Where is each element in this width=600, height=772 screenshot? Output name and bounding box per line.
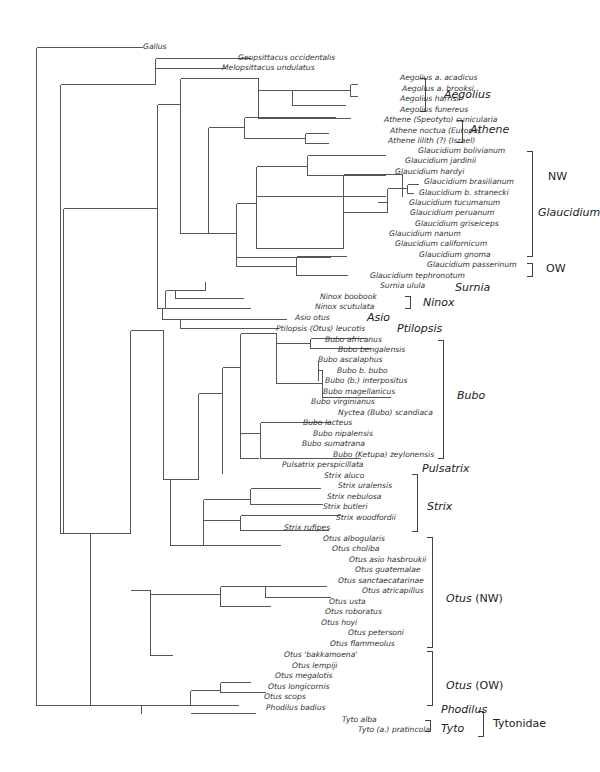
taxon-label: Bubo virginianus: [311, 397, 375, 407]
taxon-label: Glaucidium peruanum: [410, 208, 494, 218]
taxon-label: Bubo b. bubo: [337, 366, 388, 376]
clade-label-tytonidae: Tytonidae: [493, 717, 546, 731]
taxon-label: Glaucidium bolivianum: [418, 146, 505, 156]
taxon-label: Strix rufipes: [284, 523, 330, 533]
taxon-label: Bubo magellanicus: [323, 387, 395, 397]
otus-nw-bracket: [427, 538, 433, 648]
taxon-label: Strix aluco: [324, 471, 364, 481]
taxon-label: Glaucidium passerinum: [427, 260, 517, 270]
clade-region: (NW): [472, 592, 503, 605]
taxon-label: Glaucidium brasilianum: [424, 177, 514, 187]
clade-label-phodilus: Phodilus: [441, 703, 487, 717]
clade-region: (OW): [472, 679, 504, 692]
clade-label-bubo: Bubo: [457, 389, 485, 403]
taxon-label: Otus albogularis: [323, 534, 385, 544]
taxon-label: Athene lilith (?) (Israel): [388, 136, 475, 146]
taxon-label: Otus longicornis: [268, 682, 329, 692]
clade-label-ninox: Ninox: [423, 296, 455, 310]
taxon-label: Otus asio hasbroukii: [349, 555, 426, 565]
clade-name: Bubo: [457, 389, 485, 402]
clade-name: Otus: [446, 592, 472, 605]
clade-label-ow: OW: [546, 262, 566, 276]
taxon-label: Glaucidium tucumanum: [409, 198, 500, 208]
clade-name: Aegolius: [444, 88, 491, 101]
taxon-label: Otus hoyi: [321, 618, 357, 628]
taxon-label: Glaucidium nanum: [389, 229, 461, 239]
taxon-label: Bubo ascalaphus: [318, 355, 383, 365]
taxon-label: Otus flammeolus: [330, 639, 395, 649]
taxon-label: Aegolius a. acadicus: [400, 73, 478, 83]
clade-name: Strix: [427, 500, 452, 513]
taxon-label: Otus sanctaecatarinae: [338, 576, 424, 586]
taxon-label: Glaucidium b. stranecki: [419, 188, 509, 198]
taxon-label: Gallus: [143, 42, 167, 52]
clade-name: Otus: [446, 679, 472, 692]
taxon-label: Glaucidium griseiceps: [415, 219, 499, 229]
taxon-label: Otus lempiji: [292, 661, 337, 671]
taxon-label: Bubo africanus: [325, 335, 382, 345]
clade-label-ptilopsis: Ptilopsis: [397, 322, 442, 336]
taxon-label: Ninox boobook: [320, 292, 377, 302]
clade-name: Surnia: [455, 281, 490, 294]
taxon-label: Bubo nipalensis: [313, 429, 373, 439]
glaucidium-nw-bracket: [527, 152, 533, 257]
clade-name: Phodilus: [441, 703, 487, 716]
clade-name: Tytonidae: [493, 717, 546, 730]
clade-label-strix: Strix: [427, 500, 452, 514]
glaucidium-ow-bracket: [527, 264, 533, 277]
clade-label-asio: Asio: [367, 311, 390, 325]
taxon-label: Strix nebulosa: [327, 492, 381, 502]
taxon-label: Bubo lacteus: [303, 418, 352, 428]
taxon-label: Bubo bengalensis: [338, 345, 405, 355]
taxon-label: Otus guatemalae: [355, 565, 421, 575]
taxon-label: Otus petersoni: [348, 628, 404, 638]
clade-name: OW: [546, 262, 566, 275]
taxon-label: Otus 'bakkamoena': [284, 650, 357, 660]
taxon-label: Tyto (a.) pratincola: [358, 725, 430, 735]
clade-name: Glaucidium: [538, 206, 600, 219]
taxon-label: Otus roboratus: [325, 607, 382, 617]
clade-name: Pulsatrix: [422, 462, 470, 475]
otus-ow-bracket: [427, 652, 433, 706]
clade-label-glaucidium: Glaucidium: [538, 206, 600, 220]
taxon-label: Tyto alba: [342, 715, 377, 725]
clade-label-tyto: Tyto: [441, 722, 464, 736]
taxon-label: Geopsittacus occidentalis: [238, 53, 335, 63]
clade-name: Asio: [367, 311, 390, 324]
taxon-label: Strix woodfordii: [336, 513, 396, 523]
clade-label-pulsatrix: Pulsatrix: [422, 462, 470, 476]
clade-label-otus-ow: Otus (OW): [446, 679, 503, 693]
clade-label-athene: Athene: [470, 123, 509, 137]
taxon-label: Glaucidium tephronotum: [370, 271, 465, 281]
clade-name: NW: [548, 170, 567, 183]
strix-bracket: [412, 475, 418, 532]
clade-label-surnia: Surnia: [455, 281, 490, 295]
clade-label-otus-nw: Otus (NW): [446, 592, 503, 606]
taxon-label: Bubo (Ketupa) zeylonensis: [333, 450, 434, 460]
ninox-bracket: [405, 297, 411, 309]
taxon-label: Glaucidium gnoma: [419, 250, 491, 260]
taxon-label: Strix uralensis: [338, 481, 392, 491]
bubo-bracket: [438, 341, 444, 459]
taxon-label: Bubo (b.) interpositus: [325, 376, 407, 386]
clade-name: Ninox: [423, 296, 455, 309]
taxon-label: Melopsittacus undulatus: [222, 63, 315, 73]
taxon-label: Strix butleri: [323, 502, 368, 512]
taxon-label: Bubo sumatrana: [302, 439, 365, 449]
clade-label-nw: NW: [548, 170, 567, 184]
taxon-label: Nyctea (Bubo) scandiaca: [338, 408, 433, 418]
taxon-label: Aegolius funereus: [400, 105, 468, 115]
taxon-label: Athene noctua (Europe): [390, 126, 481, 136]
taxon-label: Otus atricapillus: [362, 586, 424, 596]
taxon-label: Ninox scutulata: [315, 302, 374, 312]
taxon-label: Otus usta: [329, 597, 366, 607]
taxon-label: Glaucidium californicum: [395, 239, 487, 249]
taxon-label: Otus megalotis: [275, 671, 332, 681]
taxon-label: Pulsatrix perspicillata: [282, 460, 364, 470]
taxon-label: Phodilus badius: [266, 703, 325, 713]
taxon-label: Otus choliba: [332, 544, 379, 554]
taxon-label: Otus scops: [264, 692, 306, 702]
taxon-label: Glaucidium jardinii: [405, 156, 476, 166]
clade-name: Ptilopsis: [397, 322, 442, 335]
